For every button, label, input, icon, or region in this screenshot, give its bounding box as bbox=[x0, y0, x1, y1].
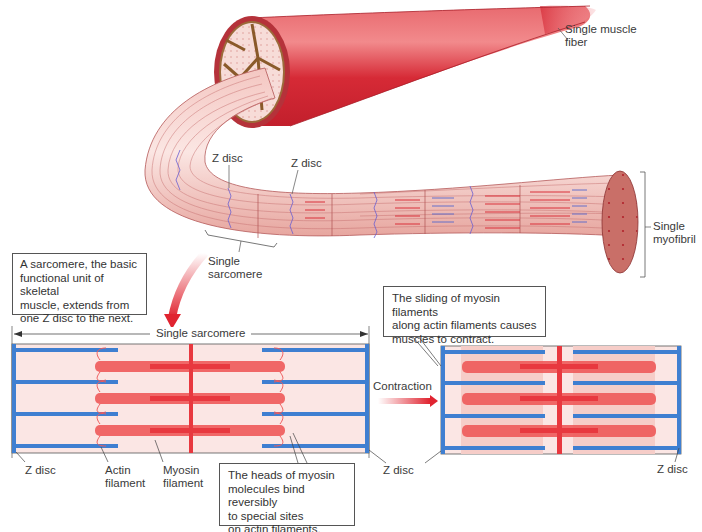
sarcomere-relaxed bbox=[12, 326, 369, 458]
callout-sliding: The sliding of myosin filaments along ac… bbox=[383, 286, 546, 337]
label-contraction: Contraction bbox=[373, 380, 432, 393]
contraction-arrow bbox=[378, 398, 430, 404]
label-single-muscle-fiber: Single muscle fiber bbox=[565, 23, 637, 49]
zoom-arrow bbox=[164, 253, 205, 329]
label-z-disc-bottom-right: Z disc bbox=[657, 463, 688, 476]
muscle-fiber bbox=[214, 6, 596, 128]
callout-sarcomere-definition: A sarcomere, the basic functional unit o… bbox=[12, 253, 147, 315]
sarcomere-contracted bbox=[441, 346, 681, 454]
label-z-disc-bottom-left: Z disc bbox=[25, 464, 56, 477]
label-z-disc-top-2: Z disc bbox=[291, 157, 322, 170]
label-single-sarcomere-span: Single sarcomere bbox=[150, 327, 251, 340]
label-z-disc-bottom-mid: Z disc bbox=[383, 464, 414, 477]
label-actin-filament: Actin filament bbox=[105, 464, 145, 490]
label-z-disc-top-1: Z disc bbox=[212, 152, 243, 165]
label-single-sarcomere-top: Single sarcomere bbox=[208, 255, 262, 281]
label-myosin-filament: Myosin filament bbox=[163, 464, 203, 490]
label-single-myofibril: Single myofibril bbox=[653, 220, 696, 246]
callout-myosin-heads: The heads of myosin molecules bind rever… bbox=[219, 463, 355, 526]
